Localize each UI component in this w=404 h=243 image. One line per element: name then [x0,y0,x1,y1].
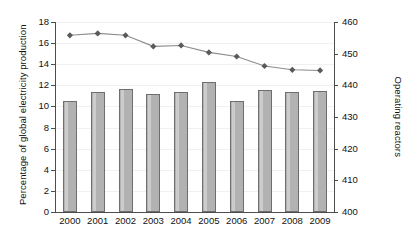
y-axis-left-title: Percentage of global electricity product… [18,20,28,210]
y-axis-left-tick [51,212,55,213]
y-axis-right-tick [334,117,338,118]
line-marker [95,30,101,36]
x-axis-tick-label: 2009 [300,216,340,226]
line-marker [234,53,240,59]
y-axis-right-tick [334,180,338,181]
line-marker [67,32,73,38]
y-axis-left-tick [51,22,55,23]
line-marker [317,67,323,73]
y-axis-right-title: Operating reactors [393,22,403,212]
y-axis-left-tick [51,43,55,44]
y-axis-left-tick-label: 14 [38,59,49,69]
y-axis-left-tick [51,191,55,192]
y-axis-left-tick-label: 0 [44,207,49,217]
line-marker [206,49,212,55]
y-axis-left-tick-label: 18 [38,17,49,27]
line-series [56,22,334,212]
y-axis-right-tick-label: 430 [342,112,358,122]
y-axis-left-tick-label: 6 [44,144,49,154]
y-axis-right-tick-label: 420 [342,144,358,154]
y-axis-left-tick-label: 10 [38,102,49,112]
line-marker [150,43,156,49]
y-axis-left-tick [51,85,55,86]
x-axis-line [55,212,335,213]
y-axis-left-tick-label: 8 [44,123,49,133]
y-axis-left-tick-label: 16 [38,38,49,48]
y-axis-left-tick [51,64,55,65]
y-axis-left-tick-label: 12 [38,81,49,91]
y-axis-right-tick [334,85,338,86]
line-marker [261,63,267,69]
line-series-markers [67,30,323,73]
y-axis-right-tick-label: 410 [342,176,358,186]
line-marker [122,32,128,38]
y-axis-right-tick [334,54,338,55]
y-axis-left-tick-label: 4 [44,165,49,175]
y-axis-right-tick [334,149,338,150]
y-axis-right-tick-label: 400 [342,207,358,217]
y-axis-right-tick-label: 440 [342,81,358,91]
y-axis-left-tick-label: 2 [44,186,49,196]
y-axis-left-tick [51,106,55,107]
y-axis-left-tick [51,170,55,171]
y-axis-right-tick-label: 450 [342,49,358,59]
line-marker [178,42,184,48]
y-axis-left-tick [51,149,55,150]
y-axis-left-tick [51,128,55,129]
line-series-path [70,33,320,70]
y-axis-right-tick-label: 460 [342,17,358,27]
plot-area: 024681012141618 400410420430440450460 20… [56,22,334,212]
line-marker [289,67,295,73]
y-axis-right-tick [334,212,338,213]
y-axis-right-tick [334,22,338,23]
